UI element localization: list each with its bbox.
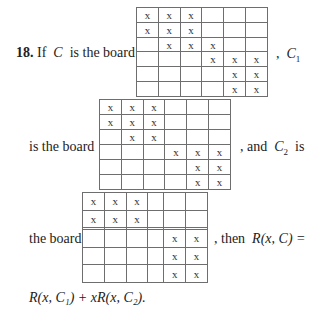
- var-c2: C: [274, 139, 283, 154]
- board-cell-empty: [158, 67, 180, 82]
- board-cell-marked: x: [121, 115, 143, 130]
- board-cell-empty: [148, 210, 164, 228]
- board-cell-marked: x: [143, 130, 165, 145]
- board-row: xx: [100, 160, 231, 175]
- board-cell-empty: [148, 193, 164, 211]
- board-cell-marked: x: [100, 100, 122, 115]
- problem-line-2: is the board: [29, 139, 94, 155]
- board-cell-marked: x: [180, 8, 202, 23]
- board-cell-marked: x: [143, 100, 165, 115]
- formula-rhs: R(x, C₁) + xR(x, C₂).: [29, 290, 146, 306]
- board-cell-marked: x: [137, 8, 159, 23]
- board-cell-marked: x: [187, 145, 209, 160]
- board-cell-empty: [246, 22, 268, 37]
- board-row: xxx: [83, 193, 208, 211]
- board-row: xx: [83, 265, 208, 283]
- board-row: xx: [100, 175, 231, 190]
- text: If: [37, 45, 46, 60]
- board-cell-empty: [83, 265, 105, 283]
- board-cell-marked: x: [209, 175, 231, 190]
- subscript: 1: [296, 54, 301, 64]
- board-cell-empty: [202, 22, 224, 37]
- board-cell-empty: [100, 175, 122, 190]
- board-cell-marked: x: [121, 100, 143, 115]
- board-cell-empty: [165, 175, 187, 190]
- board-cell-marked: x: [104, 210, 126, 228]
- board-row: xxx: [137, 52, 268, 67]
- board-cell-marked: x: [100, 115, 122, 130]
- board-cell-empty: [186, 210, 208, 228]
- board-cell-empty: [202, 82, 224, 97]
- board-row: xxx: [100, 115, 231, 130]
- board-cell-empty: [104, 265, 126, 283]
- board-cell-marked: x: [186, 229, 208, 247]
- board-cell-empty: [180, 82, 202, 97]
- var-c1: C: [287, 46, 296, 61]
- board-row: xxx: [100, 145, 231, 160]
- board-cell-marked: x: [246, 67, 268, 82]
- board-cell-empty: [148, 229, 164, 247]
- board-cell-marked: x: [209, 145, 231, 160]
- board-cell-empty: [209, 100, 231, 115]
- board-cell-empty: [126, 247, 148, 265]
- board-cell-empty: [121, 175, 143, 190]
- board-cell-empty: [83, 247, 105, 265]
- board-cell-marked: x: [164, 247, 186, 265]
- board-row: xx: [83, 229, 208, 247]
- board-cell-empty: [148, 265, 164, 283]
- board-cell-marked: x: [165, 145, 187, 160]
- board-cell-empty: [165, 130, 187, 145]
- board-row: xxx: [137, 22, 268, 37]
- board-cell-empty: [126, 265, 148, 283]
- formula-lhs: R(x, C) =: [252, 231, 305, 246]
- text: is the board: [70, 45, 135, 60]
- board-cell-marked: x: [224, 67, 246, 82]
- board-cell-marked: x: [224, 52, 246, 67]
- board-cell-empty: [165, 160, 187, 175]
- problem-line-3: the board: [29, 231, 81, 247]
- board-cell-empty: [165, 115, 187, 130]
- board-cell-empty: [187, 100, 209, 115]
- board-cell-marked: x: [180, 37, 202, 52]
- board-cell-marked: x: [164, 229, 186, 247]
- board-cell-empty: [143, 175, 165, 190]
- board-cell-marked: x: [186, 247, 208, 265]
- board-row: xx: [137, 82, 268, 97]
- text: , and: [240, 139, 267, 154]
- board-cell-empty: [104, 247, 126, 265]
- board-cell-empty: [83, 229, 105, 247]
- board-cell-empty: [137, 52, 159, 67]
- board-cell-empty: [100, 130, 122, 145]
- board-cell-empty: [186, 193, 208, 211]
- board-cell-empty: [246, 37, 268, 52]
- board-cell-empty: [209, 115, 231, 130]
- problem-number: 18.: [16, 45, 34, 60]
- text: is: [295, 139, 304, 154]
- board-cell-empty: [143, 160, 165, 175]
- board-cell-empty: [100, 160, 122, 175]
- board-cell-empty: [209, 130, 231, 145]
- board-row: xxx: [83, 210, 208, 228]
- board-cell-marked: x: [158, 8, 180, 23]
- board-cell-marked: x: [83, 210, 105, 228]
- board-cell-empty: [121, 160, 143, 175]
- board-cell-marked: x: [202, 52, 224, 67]
- board-cell-marked: x: [143, 115, 165, 130]
- board-cell-marked: x: [202, 37, 224, 52]
- board-cell-marked: x: [126, 193, 148, 211]
- board-cell-marked: x: [164, 265, 186, 283]
- board-row: xx: [83, 247, 208, 265]
- board-cell-empty: [143, 145, 165, 160]
- board-cell-marked: x: [224, 82, 246, 97]
- text: , then: [214, 231, 245, 246]
- board-row: xx: [137, 67, 268, 82]
- board-cell-marked: x: [83, 193, 105, 211]
- board-cell-empty: [148, 247, 164, 265]
- board-cell-marked: x: [246, 52, 268, 67]
- board-cell-empty: [121, 145, 143, 160]
- board-cell-empty: [224, 22, 246, 37]
- label-c1: , C1: [276, 46, 300, 67]
- board-cell-marked: x: [121, 130, 143, 145]
- board-row: xxx: [100, 100, 231, 115]
- board-cell-marked: x: [158, 22, 180, 37]
